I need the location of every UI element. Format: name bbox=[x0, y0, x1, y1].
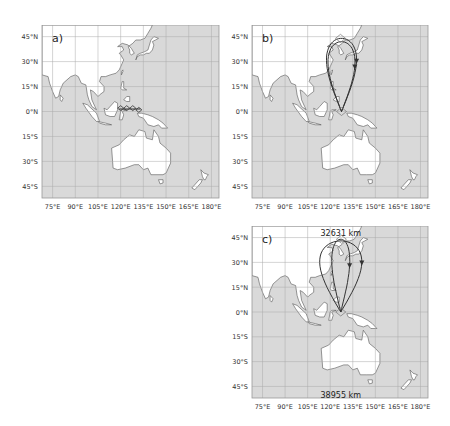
y-tick-label: 45°N bbox=[22, 33, 39, 41]
y-tick-label: 45°S bbox=[232, 183, 248, 191]
y-tick-label: 30°S bbox=[232, 158, 248, 166]
x-tick-label: 105°E bbox=[298, 203, 318, 211]
map-panel-b: b)75°E90°E105°E120°E135°E150°E165°E180°E… bbox=[212, 25, 448, 232]
x-tick-label: 135°E bbox=[343, 403, 363, 411]
x-tick-label: 120°E bbox=[320, 203, 340, 211]
x-tick-label: 135°E bbox=[343, 203, 363, 211]
y-tick-label: 30°N bbox=[232, 58, 249, 66]
y-tick-label: 30°N bbox=[232, 259, 249, 267]
x-tick-label: 105°E bbox=[298, 403, 318, 411]
x-tick-label: 165°E bbox=[388, 203, 408, 211]
y-tick-label: 45°N bbox=[232, 234, 249, 242]
panel-label: b) bbox=[262, 32, 273, 45]
y-tick-label: 15°S bbox=[232, 333, 248, 341]
y-tick-label: 15°N bbox=[232, 83, 249, 91]
y-tick-label: 45°N bbox=[232, 33, 249, 41]
y-tick-label: 15°N bbox=[22, 83, 39, 91]
x-tick-label: 135°E bbox=[133, 203, 153, 211]
panel-label: c) bbox=[262, 233, 272, 246]
map-panel-c: c)75°E90°E105°E120°E135°E150°E165°E180°E… bbox=[212, 226, 448, 426]
x-tick-label: 75°E bbox=[45, 203, 61, 211]
x-tick-label: 180°E bbox=[411, 403, 431, 411]
distance-annotation: 32631 km bbox=[321, 229, 362, 238]
y-tick-label: 0°N bbox=[236, 309, 248, 317]
distance-annotation: 38955 km bbox=[321, 391, 362, 400]
x-tick-label: 90°E bbox=[277, 203, 293, 211]
y-tick-label: 30°S bbox=[22, 158, 38, 166]
x-tick-label: 150°E bbox=[156, 203, 176, 211]
y-tick-label: 45°S bbox=[22, 183, 38, 191]
y-tick-label: 0°N bbox=[236, 108, 248, 116]
y-tick-label: 15°S bbox=[232, 133, 248, 141]
x-tick-label: 180°E bbox=[411, 203, 431, 211]
x-tick-label: 120°E bbox=[320, 403, 340, 411]
y-tick-label: 30°S bbox=[232, 358, 248, 366]
map-panel-a: a)75°E90°E105°E120°E135°E150°E165°E180°E… bbox=[2, 25, 239, 232]
y-tick-label: 45°S bbox=[232, 383, 248, 391]
x-tick-label: 90°E bbox=[67, 203, 83, 211]
x-tick-label: 165°E bbox=[388, 403, 408, 411]
x-tick-label: 120°E bbox=[111, 203, 131, 211]
panel-label: a) bbox=[52, 32, 63, 45]
x-tick-label: 75°E bbox=[255, 203, 271, 211]
y-tick-label: 30°N bbox=[22, 58, 39, 66]
y-tick-label: 15°N bbox=[232, 284, 249, 292]
x-tick-label: 165°E bbox=[179, 203, 199, 211]
x-tick-label: 75°E bbox=[255, 403, 271, 411]
x-tick-label: 150°E bbox=[365, 203, 385, 211]
y-tick-label: 0°N bbox=[26, 108, 38, 116]
x-tick-label: 105°E bbox=[88, 203, 108, 211]
x-tick-label: 90°E bbox=[277, 403, 293, 411]
x-tick-label: 150°E bbox=[365, 403, 385, 411]
y-tick-label: 15°S bbox=[22, 133, 38, 141]
